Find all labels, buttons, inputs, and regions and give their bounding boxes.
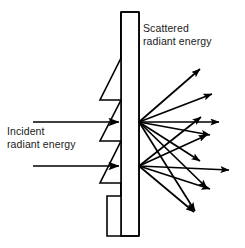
scattered-ray-u1 xyxy=(139,69,200,122)
scattered-rays-upper-group xyxy=(139,69,219,211)
scattered-ray-l5 xyxy=(139,166,194,212)
scattering-diagram: Scattered radiant energy Incident radian… xyxy=(0,0,245,248)
incident-radiant-energy-label: Incident radiant energy xyxy=(7,125,76,151)
slab-group xyxy=(100,12,139,236)
scattered-radiant-energy-label: Scattered radiant energy xyxy=(143,22,212,48)
slab-core xyxy=(122,13,138,235)
slab-jagged-edge xyxy=(100,12,121,236)
